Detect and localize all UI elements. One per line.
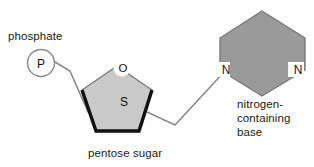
nitrogen-containing-base-label: nitrogen-containingbase — [237, 97, 290, 139]
phosphate-label: phosphate — [8, 30, 63, 44]
diagram-canvas — [0, 0, 314, 167]
nitrogen-base-label-line-1: nitrogen- — [237, 98, 283, 110]
nucleotide-diagram: P O S N N phosphate pentose sugar nitrog… — [0, 0, 314, 167]
nitrogen-left-atom-label: N — [218, 63, 234, 77]
bond-sugar-to-base — [147, 72, 224, 125]
bond-phosphate-to-sugar — [55, 62, 88, 112]
sugar-atom-label: S — [114, 95, 134, 109]
phosphorus-atom-label: P — [31, 57, 51, 71]
nitrogen-right-atom-label: N — [290, 63, 306, 77]
oxygen-atom-label: O — [113, 62, 133, 74]
pentose-sugar-label: pentose sugar — [88, 147, 162, 161]
nitrogen-base-shape — [220, 11, 305, 96]
nitrogen-base-label-line-3: base — [237, 126, 262, 138]
nitrogen-base-label-line-2: containing — [237, 112, 290, 124]
